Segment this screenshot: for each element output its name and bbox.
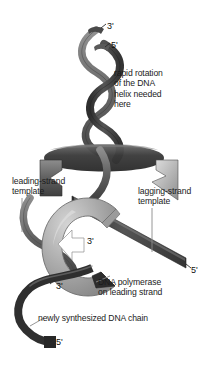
marker-three-prime-polymerase: 3' xyxy=(87,236,94,246)
marker-five-prime-lower: 5' xyxy=(56,337,63,347)
label-lagging-strand-template: lagging-strand template xyxy=(138,186,214,207)
marker-three-prime-lower: 3' xyxy=(56,281,63,291)
label-newly-synthesized-chain: newly synthesized DNA chain xyxy=(38,313,214,323)
new-chain-end-cap xyxy=(44,336,56,348)
marker-five-prime-lagging: 5' xyxy=(191,265,198,275)
label-dna-polymerase: DNA polymerase on leading strand xyxy=(98,277,214,298)
marker-five-prime-top: 5' xyxy=(111,40,118,50)
label-leading-strand-template: leading-strand template xyxy=(12,176,94,197)
leader-lines xyxy=(22,198,152,326)
tick-3prime-top xyxy=(101,24,106,28)
marker-three-prime-top: 3' xyxy=(107,21,114,31)
label-rapid-rotation: rapid rotation of the DNA helix needed h… xyxy=(114,68,212,110)
